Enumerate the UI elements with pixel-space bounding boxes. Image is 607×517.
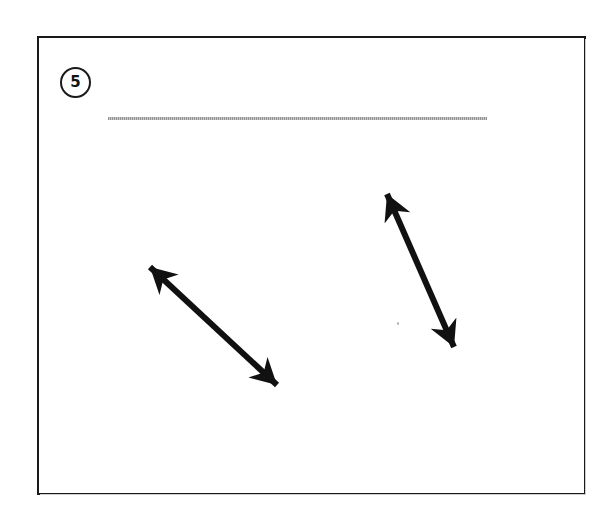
figure-page: 5 <box>0 0 607 517</box>
figure-frame <box>37 36 586 495</box>
caption-rule <box>108 117 487 120</box>
figure-number-label: 5 <box>70 75 80 90</box>
scan-speck-artifact <box>397 322 399 325</box>
figure-number-badge: 5 <box>60 67 91 98</box>
